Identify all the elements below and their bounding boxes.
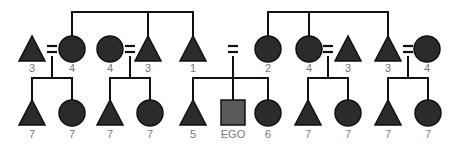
person-label: 7	[305, 128, 311, 140]
triangle-icon	[180, 36, 206, 61]
bottom-row-labels: 7 7 7 7 5 EGO 6 7 7 7 7	[29, 128, 431, 140]
person-label: 3	[145, 62, 151, 74]
children-line-4	[388, 78, 428, 100]
marriage-equals-icon	[228, 46, 238, 52]
triangle-icon	[375, 36, 401, 61]
person-label: 1	[190, 62, 196, 74]
triangle-icon	[19, 36, 45, 61]
triangle-icon	[19, 100, 45, 125]
circle-icon	[296, 36, 322, 62]
person-label: 2	[265, 62, 271, 74]
circle-icon	[335, 100, 361, 126]
connector-lines	[32, 12, 428, 100]
person-label: 4	[69, 62, 75, 74]
top-row-labels: 3 4 4 3 1 2 4 3 3 4	[29, 62, 430, 74]
children-line-1	[32, 78, 72, 100]
person-label: 7	[29, 128, 35, 140]
person-label: 7	[107, 128, 113, 140]
circle-icon	[255, 36, 281, 62]
marriage-equals-icon	[125, 46, 135, 52]
circle-icon	[97, 36, 123, 62]
person-label: 7	[425, 128, 431, 140]
person-label: 6	[265, 128, 271, 140]
children-line-ego	[193, 78, 268, 100]
children-line-3	[308, 78, 348, 100]
circle-icon	[415, 100, 441, 126]
circle-icon	[59, 36, 85, 62]
person-label: 3	[29, 62, 35, 74]
top-row	[19, 36, 440, 62]
marriage-equals-icon	[47, 46, 57, 52]
person-label: 3	[385, 62, 391, 74]
circle-icon	[414, 36, 440, 62]
triangle-icon	[335, 36, 361, 61]
triangle-icon	[97, 100, 123, 125]
triangle-icon	[180, 100, 206, 125]
person-label: 7	[147, 128, 153, 140]
triangle-icon	[295, 100, 321, 125]
sibling-line-left	[72, 12, 193, 38]
person-label: 4	[306, 62, 312, 74]
sibling-line-right	[268, 12, 388, 38]
person-label: 7	[69, 128, 75, 140]
ego-square-icon	[221, 100, 245, 125]
marriage-equals-icon	[323, 46, 333, 52]
marriage-equals-icon	[403, 46, 413, 52]
person-label: 7	[345, 128, 351, 140]
children-line-2	[110, 78, 150, 100]
person-label: 5	[190, 128, 196, 140]
ego-label: EGO	[221, 128, 246, 140]
circle-icon	[255, 100, 281, 126]
person-label: 7	[385, 128, 391, 140]
kinship-diagram: 3 4 4 3 1 2 4 3 3 4 7 7 7 7 5 EGO 6 7 7 …	[0, 0, 457, 145]
triangle-icon	[135, 36, 161, 61]
circle-icon	[59, 100, 85, 126]
person-label: 3	[345, 62, 351, 74]
bottom-row	[19, 100, 441, 126]
person-label: 4	[107, 62, 113, 74]
circle-icon	[137, 100, 163, 126]
person-label: 4	[424, 62, 430, 74]
triangle-icon	[375, 100, 401, 125]
